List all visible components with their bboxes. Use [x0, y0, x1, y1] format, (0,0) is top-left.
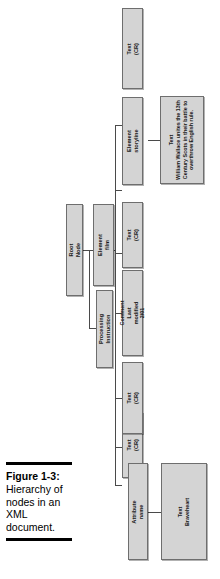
connector-to-text-cr-3 [115, 253, 122, 254]
node-processing-instruction-label: Processing Instruction [98, 314, 111, 344]
figure-caption-block: Figure 1-3: Hierarchy of nodes in an XML… [6, 462, 78, 541]
node-comment-label: Comment Last modified 2/01 [119, 301, 146, 326]
node-text-cr-2-label: Text (CR) [126, 392, 139, 404]
connector-to-attribute [115, 485, 122, 486]
node-text-cr-4-label: Text (CR) [126, 43, 139, 55]
connector-to-text-cr-4 [115, 125, 122, 126]
connector-root-to-processing-instruction [89, 328, 96, 329]
caption-rule-bottom [6, 538, 72, 541]
connector-to-element-storyline [115, 190, 122, 191]
connector-element-film-spine [115, 125, 116, 485]
node-processing-instruction[interactable]: Processing Instruction [96, 290, 113, 368]
node-element-film-label: Element film [97, 234, 110, 256]
figure-caption-body: Hierarchy of nodes in an XML document. [6, 483, 63, 533]
figure-number-label: Figure 1-3: [6, 470, 60, 482]
node-attribute-label: Attribute name [131, 500, 144, 523]
node-root[interactable]: Root Node [66, 204, 83, 296]
node-element-storyline-label: Element storyline [126, 129, 139, 152]
figure-caption-text: Figure 1-3: Hierarchy of nodes in an XML… [6, 465, 76, 538]
node-text-cr-4[interactable]: Text (CR) [122, 8, 143, 89]
node-text-storyline-body[interactable]: Text William Wallace unites the 13th Cen… [160, 96, 204, 184]
node-text-braveheart[interactable]: Text Braveheart [161, 463, 207, 560]
node-text-cr-1-label: Text (CR) [126, 439, 139, 451]
connector-attribute-to-text-braveheart [148, 512, 162, 513]
node-attribute[interactable]: Attribute name [128, 463, 148, 560]
node-text-cr-2[interactable]: Text (CR) [122, 362, 143, 434]
node-text-cr-3[interactable]: Text (CR) [122, 202, 143, 268]
node-text-storyline-body-label: Text William Wallace unites the 13th Cen… [168, 100, 195, 180]
connector-to-text-cr-2 [115, 398, 122, 399]
connector-to-text-cr-1 [115, 447, 122, 448]
connector-root-spine [89, 250, 90, 328]
node-element-storyline[interactable]: Element storyline [122, 97, 143, 185]
node-root-label: Root Node [68, 243, 81, 257]
node-text-braveheart-label: Text Braveheart [177, 497, 191, 525]
node-comment[interactable]: Comment Last modified 2/01 [122, 270, 143, 356]
node-element-film[interactable]: Element film [93, 204, 114, 286]
node-text-cr-3-label: Text (CR) [126, 229, 139, 241]
